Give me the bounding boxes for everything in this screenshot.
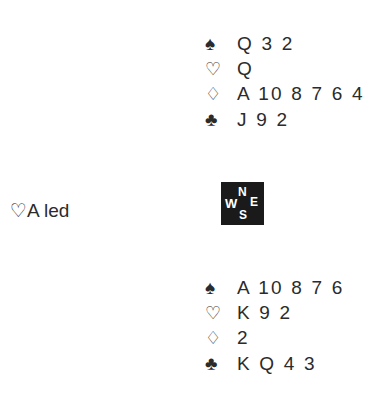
south-clubs-cards: K Q 4 3 <box>237 353 317 375</box>
south-spades-cards: A 10 8 7 6 <box>237 277 345 299</box>
north-spades-cards: Q 3 2 <box>237 33 294 55</box>
heart-icon: ♡ <box>204 304 237 322</box>
north-clubs-row: ♣ J 9 2 <box>204 107 365 132</box>
north-clubs-cards: J 9 2 <box>237 109 289 131</box>
compass-south: S <box>239 209 247 221</box>
spade-icon: ♠ <box>204 34 237 53</box>
heart-icon: ♡ <box>204 60 237 78</box>
south-hearts-cards: K 9 2 <box>237 302 292 324</box>
compass-north: N <box>238 186 247 198</box>
north-hearts-cards: Q <box>237 58 254 80</box>
diamond-icon: ♢ <box>204 329 237 347</box>
compass-west: W <box>225 197 237 210</box>
north-hearts-row: ♡ Q <box>204 56 365 81</box>
south-diamonds-row: ♢ 2 <box>204 326 345 351</box>
south-clubs-row: ♣ K Q 4 3 <box>204 351 345 376</box>
compass-east: E <box>250 196 258 208</box>
north-diamonds-row: ♢ A 10 8 7 6 4 <box>204 82 365 107</box>
club-icon: ♣ <box>204 110 237 129</box>
club-icon: ♣ <box>204 354 237 373</box>
north-hand: ♠ Q 3 2 ♡ Q ♢ A 10 8 7 6 4 ♣ J 9 2 <box>204 31 365 132</box>
north-diamonds-cards: A 10 8 7 6 4 <box>237 83 365 105</box>
south-hand: ♠ A 10 8 7 6 ♡ K 9 2 ♢ 2 ♣ K Q 4 3 <box>204 275 345 376</box>
diamond-icon: ♢ <box>204 85 237 103</box>
south-diamonds-cards: 2 <box>237 327 250 349</box>
north-spades-row: ♠ Q 3 2 <box>204 31 365 56</box>
spade-icon: ♠ <box>204 278 237 297</box>
south-hearts-row: ♡ K 9 2 <box>204 300 345 325</box>
compass-diagram: N W E S <box>221 182 264 225</box>
opening-lead-label: ♡A led <box>10 199 69 222</box>
south-spades-row: ♠ A 10 8 7 6 <box>204 275 345 300</box>
